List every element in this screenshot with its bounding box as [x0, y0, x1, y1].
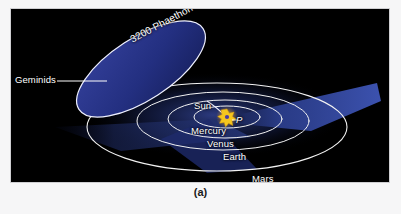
figure-panel: Geminids 3200 Phaethon Sun P Mercury Ven…	[11, 9, 389, 182]
label-mercury: Mercury	[191, 126, 226, 136]
label-phaethon-marker: P	[236, 115, 242, 125]
solar-system-diagram	[11, 9, 389, 182]
label-earth: Earth	[223, 152, 246, 162]
label-venus: Venus	[207, 139, 234, 149]
label-sun: Sun	[194, 101, 211, 111]
figure-page: Geminids 3200 Phaethon Sun P Mercury Ven…	[0, 0, 401, 214]
label-mars: Mars	[252, 174, 274, 182]
label-geminids: Geminids	[15, 75, 56, 85]
figure-caption: (a)	[0, 186, 401, 198]
sun-core	[225, 115, 229, 119]
